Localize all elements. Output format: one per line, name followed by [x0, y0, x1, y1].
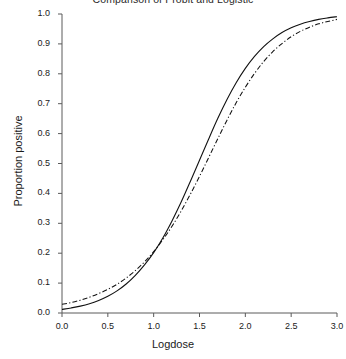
y-axis-tick-label: 0.4 — [24, 187, 50, 197]
x-axis-tick-label: 0.0 — [47, 321, 77, 331]
x-axis-tick-label: 1.5 — [185, 321, 215, 331]
x-axis-label: Logdose — [0, 338, 346, 350]
y-axis-tick-label: 0.3 — [24, 217, 50, 227]
x-axis-ticks — [62, 313, 337, 317]
axis-lines — [62, 14, 337, 313]
chart-title: Comparison of Probit and Logistic — [0, 0, 346, 5]
y-axis-ticks — [58, 14, 62, 313]
y-axis-tick-label: 0.0 — [24, 307, 50, 317]
y-axis-label: Proportion positive — [12, 71, 24, 251]
y-axis-tick-label: 0.6 — [24, 128, 50, 138]
x-axis-tick-label: 2.0 — [230, 321, 260, 331]
y-axis-tick-label: 0.1 — [24, 277, 50, 287]
y-axis-tick-label: 0.2 — [24, 247, 50, 257]
plot-area — [0, 0, 346, 359]
y-axis-tick-label: 0.7 — [24, 98, 50, 108]
x-axis-tick-label: 2.5 — [276, 321, 306, 331]
curve-probit — [62, 17, 337, 310]
y-axis-tick-label: 0.8 — [24, 68, 50, 78]
curve-logistic — [62, 19, 337, 304]
y-axis-tick-label: 0.9 — [24, 38, 50, 48]
x-axis-tick-label: 3.0 — [322, 321, 346, 331]
y-axis-tick-label: 1.0 — [24, 8, 50, 18]
x-axis-tick-label: 0.5 — [93, 321, 123, 331]
data-curves — [62, 17, 337, 310]
chart-figure: Comparison of Probit and Logistic Propor… — [0, 0, 346, 359]
y-axis-tick-label: 0.5 — [24, 158, 50, 168]
x-axis-tick-label: 1.0 — [139, 321, 169, 331]
